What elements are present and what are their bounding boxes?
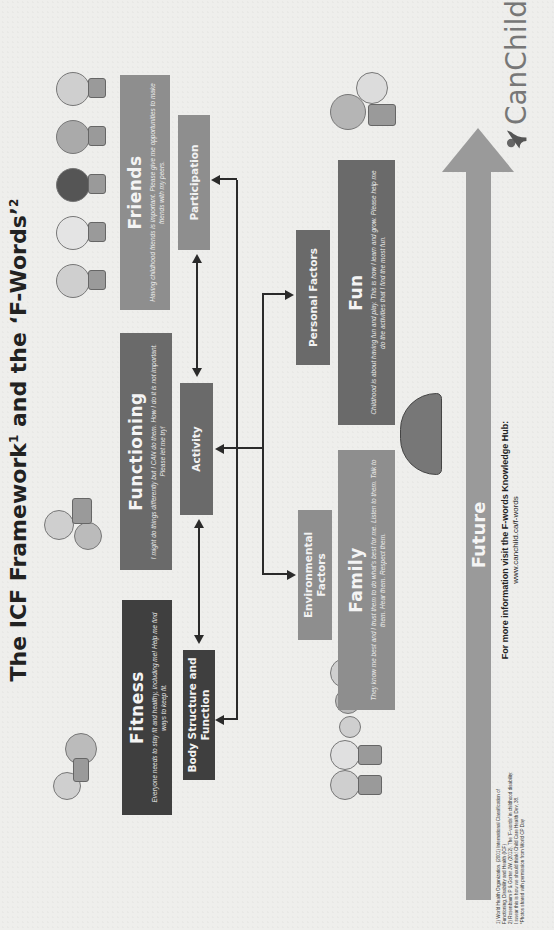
fun-heading: Fun <box>346 274 366 310</box>
fitness-heading: Fitness <box>127 671 147 744</box>
canchild-logo: CanChild <box>492 0 540 150</box>
title-footnote-1: 1 <box>7 435 21 443</box>
child-wheelchair-illustration <box>40 480 105 570</box>
family-heading: Family <box>346 547 366 613</box>
fitness-box: Fitness Everyone needs to stay fit and h… <box>122 600 172 815</box>
arrowhead-left-icon <box>194 635 204 644</box>
fitness-description: Everyone needs to stay fit and healthy, … <box>150 608 168 807</box>
title-footnote-2: 2 <box>7 199 21 207</box>
footnotes: 1) World Health Organization. (2001) Int… <box>496 714 526 924</box>
functioning-box: Functioning I might do things differentl… <box>120 333 172 570</box>
arrowhead-up-icon <box>215 715 224 725</box>
future-arrow: Future <box>466 170 491 900</box>
footer-info-text: For more information visit the F-words K… <box>500 390 510 690</box>
fun-box: Fun Childhood is about having fun and pl… <box>338 160 395 425</box>
arrow-activity-participation <box>196 263 198 370</box>
arrowhead-left-icon <box>192 368 202 377</box>
footnote-line: *Photos shared with permission from Worl… <box>520 714 526 924</box>
friends-box: Friends Having childhood friends is impo… <box>120 75 170 310</box>
arrowhead-right-icon <box>194 519 204 528</box>
f-words-poster: The ICF Framework1 and the ‘F-Words’2 <box>0 0 554 930</box>
environmental-factors-box: Environmental Factors <box>298 510 332 640</box>
connector-outer-left <box>222 719 237 721</box>
friends-heading: Friends <box>125 155 145 229</box>
title-part-1: The ICF Framework <box>6 443 31 681</box>
personal-factors-box: Personal Factors <box>296 230 330 365</box>
fun-description: Childhood is about having fun and play. … <box>369 168 387 417</box>
family-description: They know me best and I trust them to do… <box>369 458 387 702</box>
functioning-description: I might do things differently but I CAN … <box>149 341 167 562</box>
future-label: Future <box>468 502 489 569</box>
footer-info: For more information visit the F-words K… <box>500 390 520 690</box>
arrowhead-up-icon <box>215 444 224 454</box>
activity-box: Activity <box>180 383 213 515</box>
family-box: Family They know me best and I trust the… <box>338 450 395 710</box>
child-bike-illustration <box>45 720 105 810</box>
title-part-2: and the ‘F-Words’ <box>6 207 31 435</box>
connector-activity-down <box>222 448 262 450</box>
arrowhead-down-icon <box>287 570 296 580</box>
children-group-illustration <box>50 70 110 310</box>
connector-personal <box>262 294 287 296</box>
body-structure-box: Body Structure and Function <box>183 650 215 780</box>
canchild-figure-icon <box>499 129 533 150</box>
arrowhead-up-icon <box>211 175 220 185</box>
poster-title: The ICF Framework1 and the ‘F-Words’2 <box>6 150 31 730</box>
arrow-body-activity <box>198 528 200 637</box>
friends-description: Having childhood friends is important. P… <box>148 83 166 302</box>
functioning-heading: Functioning <box>126 392 146 510</box>
arrowhead-down-icon <box>285 290 294 300</box>
houses-village-illustration <box>400 393 442 475</box>
footer-url-link[interactable]: www.canchild.ca/f-words <box>511 390 520 690</box>
arrowhead-right-icon <box>192 254 202 263</box>
child-with-wheel-illustration <box>320 70 410 140</box>
connector-contextual <box>262 295 264 575</box>
canchild-wordmark: CanChild <box>500 0 533 125</box>
connector-env <box>262 574 289 576</box>
participation-box: Participation <box>178 115 210 250</box>
connector-outer-right <box>218 179 237 181</box>
connector-outer <box>236 180 238 720</box>
